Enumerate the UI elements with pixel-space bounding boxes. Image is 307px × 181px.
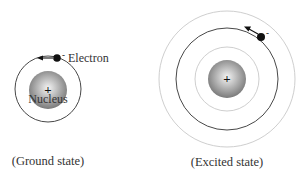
ground-state-caption: (Ground state)	[12, 154, 85, 168]
ground-electron	[53, 54, 61, 62]
excited-state-caption: (Excited state)	[191, 155, 264, 169]
ground-arrowhead-icon	[37, 56, 43, 61]
excited-nucleus-charge: +	[223, 71, 230, 86]
ground-state-atom: + Nucleus - Electron	[15, 50, 109, 122]
nucleus-label: Nucleus	[28, 92, 68, 106]
excited-state-atom: + -	[159, 11, 295, 147]
electron-label: Electron	[68, 51, 109, 65]
atom-diagram: + Nucleus - Electron + - (Ground state) …	[0, 0, 307, 181]
excited-electron-charge: -	[266, 28, 269, 38]
ground-electron-charge: -	[62, 50, 65, 60]
excited-electron	[257, 33, 265, 41]
